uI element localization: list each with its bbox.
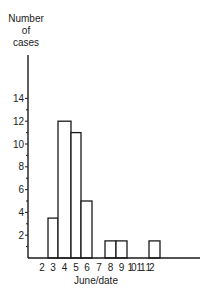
bar-june-3: [48, 218, 58, 258]
x-tick-label: 5: [73, 262, 79, 273]
x-axis-ticks: 23456789101112: [39, 262, 155, 273]
x-tick-label: 12: [146, 262, 155, 273]
histogram-chart: Numberofcases 2468101214 23456789101112 …: [0, 0, 215, 298]
bar-june-8: [105, 241, 116, 258]
x-tick-label: 2: [39, 262, 45, 273]
bar-june-12: [149, 241, 160, 258]
y-tick-label: 12: [13, 116, 25, 127]
y-axis-label-line: Number: [8, 13, 44, 24]
x-tick-label: 4: [62, 262, 68, 273]
y-tick-label: 6: [18, 184, 24, 195]
x-tick-label: 3: [50, 262, 56, 273]
y-tick-label: 14: [13, 93, 25, 104]
x-tick-label: 9: [119, 262, 125, 273]
bar-june-9: [116, 241, 127, 258]
y-tick-label: 4: [18, 207, 24, 218]
bar-june-5: [71, 133, 81, 258]
bar-june-4: [58, 121, 71, 258]
x-tick-label: 6: [84, 262, 90, 273]
x-axis-label: June/date: [74, 275, 118, 286]
y-axis-label: Numberofcases: [8, 13, 44, 48]
x-tick-label: 8: [108, 262, 114, 273]
y-tick-label: 10: [13, 139, 25, 150]
y-axis-ticks: 2468101214: [13, 93, 28, 247]
y-axis-label-line: of: [22, 25, 31, 36]
y-tick-label: 2: [18, 230, 24, 241]
y-tick-label: 8: [18, 161, 24, 172]
y-axis-label-line: cases: [13, 37, 39, 48]
bars: [48, 121, 160, 258]
x-tick-label: 7: [96, 262, 102, 273]
bar-june-6: [81, 201, 92, 258]
